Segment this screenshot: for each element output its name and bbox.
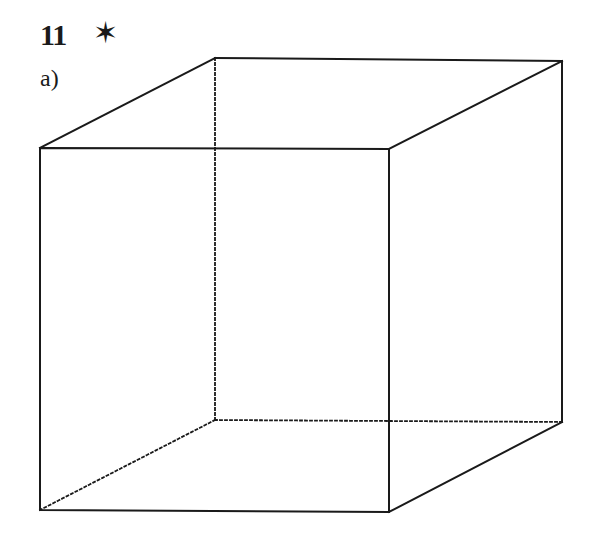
cube-diagram (0, 0, 597, 538)
hidden-edge-bottom-left-depth (40, 420, 215, 510)
edge-top-right-depth (389, 61, 562, 149)
edge-top-left-depth (40, 58, 215, 148)
hidden-edges (40, 58, 562, 510)
edge-bottom-right-depth (389, 422, 562, 512)
edge-back-top (215, 58, 562, 61)
visible-edges (40, 58, 562, 512)
